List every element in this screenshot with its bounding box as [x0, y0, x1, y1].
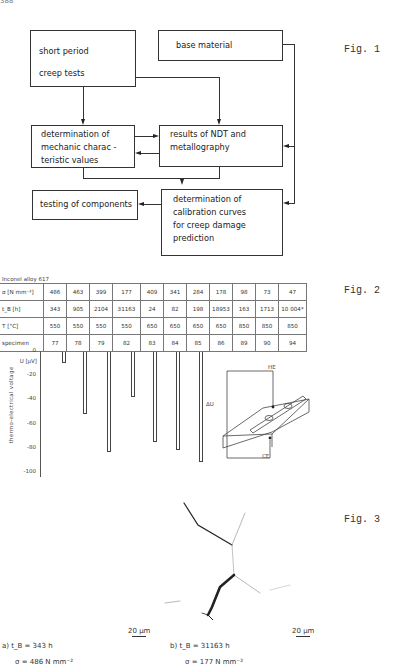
table-cell: 284 [187, 284, 210, 301]
connector-line [182, 178, 183, 182]
table-cell: 77 [44, 335, 67, 352]
caption-a-sigma: σ = 486 N mm⁻² [15, 658, 73, 666]
bar-specimen-84 [153, 352, 157, 442]
bar-specimen-78 [62, 352, 66, 363]
box-text: short period [39, 40, 135, 62]
bar-specimen-82 [107, 352, 111, 452]
fig2-label: Fig. 2 [344, 285, 380, 296]
y-axis-label: thermo-electrical voltage [8, 367, 14, 444]
box-text: for creep damage [173, 219, 282, 232]
table-cell: 550 [90, 318, 113, 335]
y-tick: -60 [14, 420, 36, 426]
connector-line [283, 44, 294, 45]
box-text: creep tests [39, 62, 135, 84]
box-text: prediction [173, 232, 282, 245]
table-row-sigma: σ [N mm⁻²] 486 463 399 177 409 341 284 1… [0, 284, 307, 301]
table-cell: 78 [67, 335, 90, 352]
connector-line [294, 44, 295, 204]
y-tick: -40 [14, 395, 36, 401]
box-text: calibration curves [173, 206, 282, 219]
caption-b-tb: b) t_B = 31163 h [170, 642, 230, 650]
table-row-tb: t_B [h] 343 905 2104 31163 24 82 198 189… [0, 301, 307, 318]
table-cell: 86 [210, 335, 233, 352]
delta-u-label: ΔU [206, 401, 214, 407]
y-tick: -80 [14, 444, 36, 450]
connector-line [135, 136, 153, 137]
connector-line [83, 178, 220, 179]
table-cell: 409 [141, 284, 164, 301]
y-tick: -20 [14, 371, 36, 377]
table-cell: 1713 [256, 301, 279, 318]
box-text: results of NDT and [170, 128, 282, 141]
table-cell: 89 [233, 335, 256, 352]
page-number: 388 [0, 0, 13, 5]
connector-line [289, 203, 294, 204]
table-cell: 650 [187, 318, 210, 335]
arrow-left-icon [138, 202, 144, 206]
table-cell: 82 [113, 335, 141, 352]
table-cell: 73 [256, 284, 279, 301]
y-tick: 0 [14, 347, 36, 353]
table-cell: 341 [164, 284, 187, 301]
scale-bar-a-label: 20 µm [128, 627, 150, 635]
table-cell: 850 [233, 318, 256, 335]
arrow-left-icon [135, 151, 141, 155]
ce-label: CE [262, 453, 269, 459]
he-label: HE [268, 364, 276, 370]
fig2-data-table: σ [N mm⁻²] 486 463 399 177 409 341 284 1… [0, 283, 307, 352]
box-text: testing of components [40, 198, 137, 211]
arrow-left-icon [283, 144, 289, 148]
row-label: t_B [h] [0, 301, 44, 318]
connector-line [136, 77, 219, 78]
connector-line [83, 87, 84, 119]
alloy-title: Inconel alloy 617 [2, 276, 49, 282]
bar-specimen-79 [83, 352, 87, 414]
table-cell: 650 [210, 318, 233, 335]
table-cell: 650 [164, 318, 187, 335]
table-cell: 550 [113, 318, 141, 335]
specimen-schematic-icon [205, 362, 315, 466]
table-cell: 343 [44, 301, 67, 318]
table-cell: 24 [141, 301, 164, 318]
table-cell: 463 [67, 284, 90, 301]
box-mechanic-characteristic-values: determination of mechanic charac - teris… [31, 125, 135, 168]
table-cell: 98 [233, 284, 256, 301]
table-cell: 31163 [113, 301, 141, 318]
scale-bar-a: 20 µm [128, 627, 150, 637]
row-label: σ [N mm⁻²] [0, 284, 44, 301]
table-cell: 198 [187, 301, 210, 318]
caption-a-tb: a) t_B = 343 h [2, 642, 53, 650]
caption-b-sigma: σ = 177 N mm⁻² [185, 658, 243, 666]
y-axis-unit: U [µV] [11, 358, 37, 364]
table-cell: 84 [164, 335, 187, 352]
fig3-label: Fig. 3 [344, 514, 380, 525]
bar-specimen-85 [176, 352, 180, 450]
connector-line [141, 153, 159, 154]
scale-bar-b-line [296, 636, 310, 637]
table-cell: 850 [256, 318, 279, 335]
arrow-right-icon [153, 134, 159, 138]
table-cell: 177 [113, 284, 141, 301]
table-cell: 83 [141, 335, 164, 352]
table-row-temperature: T [°C] 550 550 550 550 650 650 650 650 8… [0, 318, 307, 335]
scale-bar-b: 20 µm [292, 627, 314, 637]
table-cell: 2104 [90, 301, 113, 318]
y-axis [40, 351, 41, 477]
bar-specimen-86 [199, 352, 203, 462]
table-cell: 18953 [210, 301, 233, 318]
box-text: determination of [41, 128, 134, 141]
table-cell: 90 [256, 335, 279, 352]
box-testing-of-components: testing of components [32, 190, 138, 220]
table-row-specimen: specimen 77 78 79 82 83 84 85 86 89 90 9… [0, 335, 307, 352]
fig1-label: Fig. 1 [344, 44, 380, 55]
table-cell: 905 [67, 301, 90, 318]
arrow-left-icon [283, 201, 289, 205]
box-text: mechanic charac - [41, 141, 134, 154]
table-cell: 399 [90, 284, 113, 301]
scale-bar-a-line [132, 636, 146, 637]
arrow-down-icon [81, 119, 85, 125]
table-cell: 163 [233, 301, 256, 318]
table-cell: 82 [164, 301, 187, 318]
table-cell: 85 [187, 335, 210, 352]
table-cell: 650 [141, 318, 164, 335]
